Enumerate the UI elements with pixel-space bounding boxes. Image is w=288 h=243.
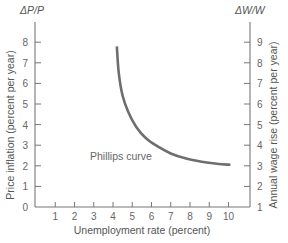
curve-label: Phillips curve	[90, 150, 152, 162]
y-tick-label: 7	[22, 58, 28, 69]
y-tick-label: 0	[22, 202, 28, 213]
y-right-tick-label: 2	[257, 181, 263, 192]
y-right-tick-label: 6	[257, 99, 263, 110]
y-right-axis-title: Annual wage rise (percent per year)	[267, 42, 279, 209]
x-tick-label: 1	[52, 211, 58, 222]
x-tick-label: 9	[206, 211, 212, 222]
x-tick-label: 2	[72, 211, 78, 222]
x-tick-label: 3	[91, 211, 97, 222]
y-axis-symbol: ΔP/P	[19, 4, 44, 16]
y-right-tick-label: 1	[257, 202, 263, 213]
x-tick-label: 10	[223, 211, 235, 222]
x-tick-label: 6	[149, 211, 155, 222]
y-tick-label: 8	[22, 37, 28, 48]
y-tick-label: 4	[22, 120, 28, 131]
y-tick-label: 6	[22, 78, 28, 89]
y-right-tick-label: 3	[257, 161, 263, 172]
y-tick-label: 1	[22, 181, 28, 192]
phillips-curve-chart: 12345678910012345678123456789 Phillips c…	[0, 0, 288, 243]
y-axis-title: Price inflation (percent per year)	[4, 50, 16, 199]
x-axis-title: Unemployment rate (percent)	[74, 224, 211, 236]
y-tick-label: 3	[22, 140, 28, 151]
y-right-tick-label: 7	[257, 78, 263, 89]
phillips-curve-line	[117, 46, 231, 164]
x-tick-label: 8	[187, 211, 193, 222]
y-right-tick-label: 8	[257, 58, 263, 69]
ticks: 12345678910012345678123456789	[22, 37, 263, 222]
y-tick-label: 5	[22, 99, 28, 110]
x-tick-label: 7	[168, 211, 174, 222]
y-right-tick-label: 9	[257, 37, 263, 48]
axes	[35, 22, 250, 207]
y-right-tick-label: 4	[257, 140, 263, 151]
y-tick-label: 2	[22, 161, 28, 172]
y-right-axis-symbol: ΔW/W	[234, 4, 266, 16]
x-tick-label: 4	[110, 211, 116, 222]
y-right-tick-label: 5	[257, 120, 263, 131]
x-tick-label: 5	[129, 211, 135, 222]
